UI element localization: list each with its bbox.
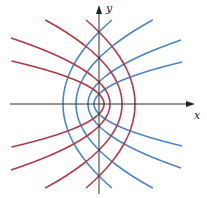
y-axis-label: y [105, 2, 113, 15]
parabola-diagram: x y [0, 0, 207, 198]
x-axis-arrow-icon [186, 101, 195, 107]
y-axis-arrow-icon [96, 5, 102, 14]
x-axis-label: x [194, 109, 201, 122]
